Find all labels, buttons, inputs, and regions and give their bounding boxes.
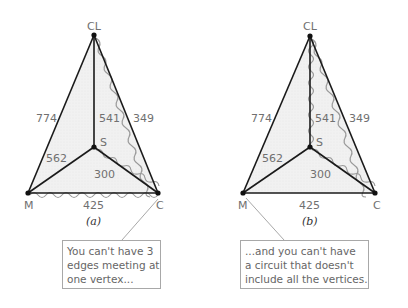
vertex-s-a — [91, 144, 96, 149]
note-line: a circuit that doesn't — [245, 258, 364, 272]
edge-label-541-b: 541 — [315, 112, 336, 125]
vertex-label-cl-a: CL — [87, 20, 102, 33]
vertex-label-m-b: M — [238, 199, 248, 212]
note-line: ...and you can't have — [245, 244, 364, 258]
edge-label-300-a: 300 — [94, 168, 115, 181]
edge-label-425-b: 425 — [299, 199, 320, 212]
vertex-label-s-a: S — [100, 136, 107, 149]
note-line: include all the vertices. — [245, 272, 364, 286]
note-line: You can't have 3 — [67, 244, 156, 258]
edge-label-774-a: 774 — [36, 112, 57, 125]
callout-line-b — [246, 198, 284, 240]
graph-a: CL M C S 774 541 349 562 300 425 (a) — [24, 20, 164, 240]
vertex-label-s-b: S — [316, 136, 323, 149]
note-line: one vertex... — [67, 272, 156, 286]
edge-label-541-a: 541 — [99, 112, 120, 125]
caption-b: (b) — [302, 215, 318, 228]
edge-label-562-a: 562 — [46, 152, 67, 165]
edge-label-774-b: 774 — [251, 112, 272, 125]
edge-label-300-b: 300 — [310, 168, 331, 181]
vertex-m-b — [240, 190, 245, 195]
edge-label-349-b: 349 — [349, 112, 370, 125]
edge-label-349-a: 349 — [133, 112, 154, 125]
vertex-s-b — [307, 144, 312, 149]
note-line: edges meeting at — [67, 258, 156, 272]
callout-note-a: You can't have 3 edges meeting at one ve… — [62, 240, 161, 289]
callout-note-b: ...and you can't have a circuit that doe… — [240, 240, 369, 289]
vertex-label-cl-b: CL — [303, 20, 318, 33]
vertex-cl-b — [307, 33, 312, 38]
vertex-label-m-a: M — [24, 199, 34, 212]
vertex-c-b — [372, 190, 377, 195]
vertex-m-a — [25, 190, 30, 195]
vertex-cl-a — [91, 32, 96, 37]
vertex-label-c-a: C — [156, 199, 164, 212]
vertex-c-a — [155, 190, 160, 195]
edge-label-562-b: 562 — [262, 152, 283, 165]
graph-b: CL M C S 774 541 349 562 300 425 (b) — [238, 20, 381, 240]
caption-a: (a) — [86, 215, 101, 228]
edge-label-425-a: 425 — [83, 199, 104, 212]
callout-line-a — [122, 199, 158, 240]
vertex-label-c-b: C — [373, 199, 381, 212]
